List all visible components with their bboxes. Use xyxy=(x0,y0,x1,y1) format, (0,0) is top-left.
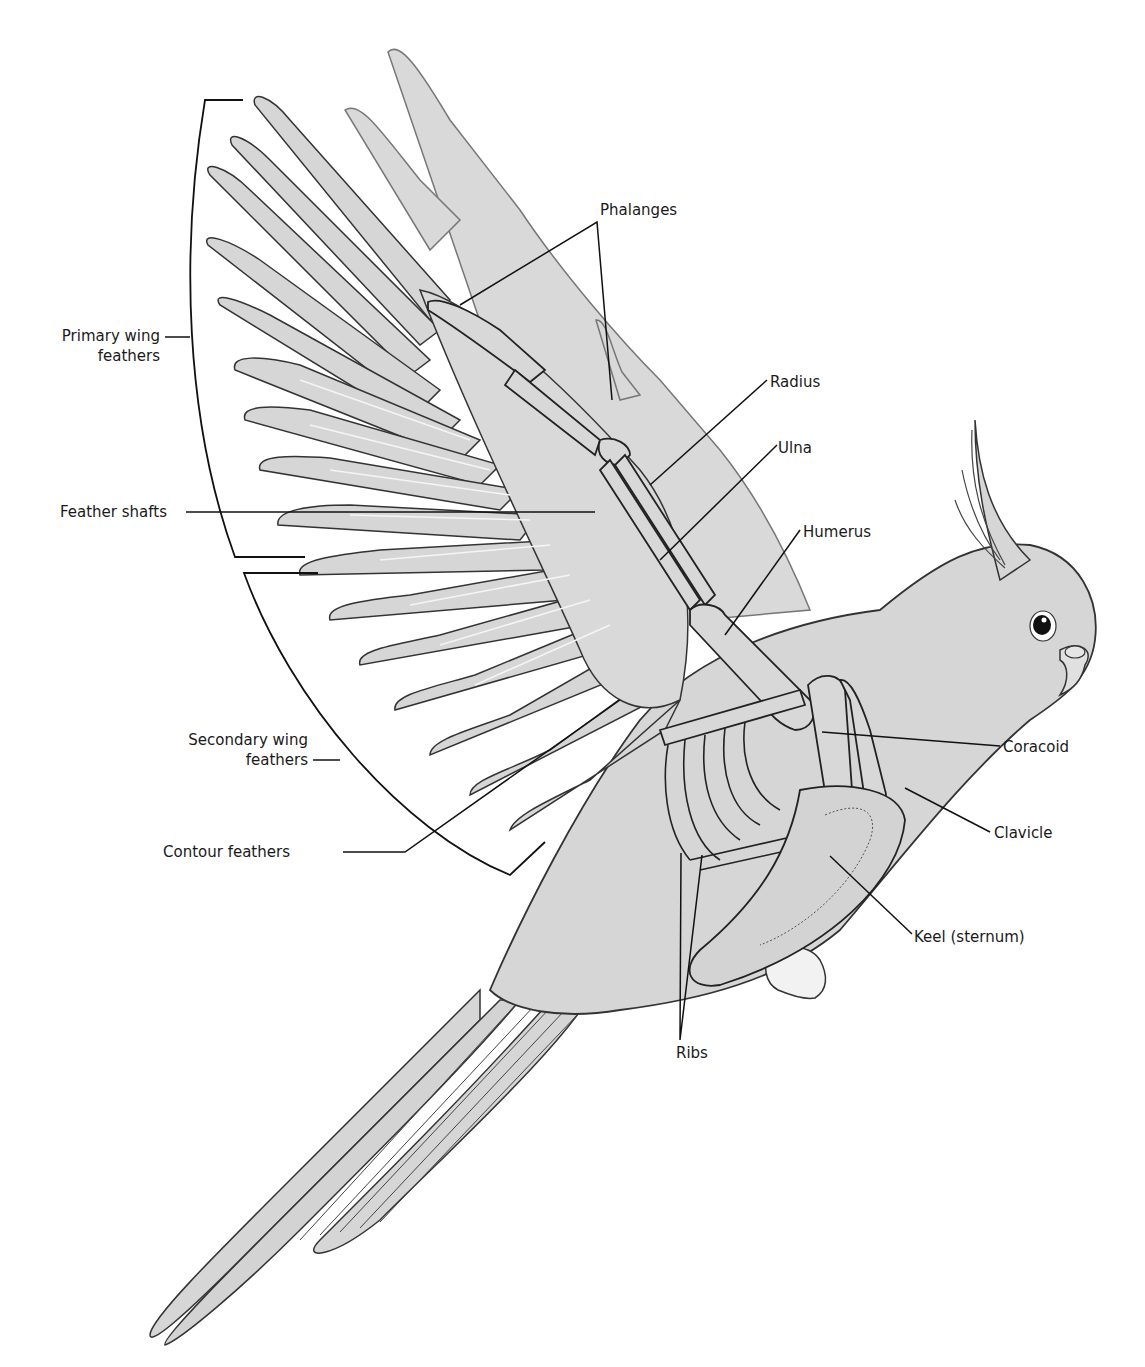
label-primary-line1: Primary wing xyxy=(20,326,160,346)
label-primary-line2: feathers xyxy=(20,346,160,366)
bird-illustration xyxy=(0,0,1145,1367)
label-keel-sternum: Keel (sternum) xyxy=(914,927,1025,947)
label-secondary-line1: Secondary wing xyxy=(140,730,308,750)
label-phalanges: Phalanges xyxy=(600,200,677,220)
label-ulna: Ulna xyxy=(778,438,812,458)
label-clavicle: Clavicle xyxy=(994,823,1053,843)
label-humerus: Humerus xyxy=(803,522,871,542)
label-primary-wing-feathers: Primary wing feathers xyxy=(20,326,160,366)
label-coracoid: Coracoid xyxy=(1003,737,1069,757)
tail xyxy=(150,980,600,1345)
bird-anatomy-diagram: Primary wing feathers Feather shafts Sec… xyxy=(0,0,1145,1367)
label-ribs: Ribs xyxy=(676,1043,708,1063)
label-contour-feathers: Contour feathers xyxy=(163,842,290,862)
label-feather-shafts: Feather shafts xyxy=(60,502,167,522)
label-secondary-line2: feathers xyxy=(140,750,308,770)
label-radius: Radius xyxy=(770,372,820,392)
label-secondary-wing-feathers: Secondary wing feathers xyxy=(140,730,308,770)
